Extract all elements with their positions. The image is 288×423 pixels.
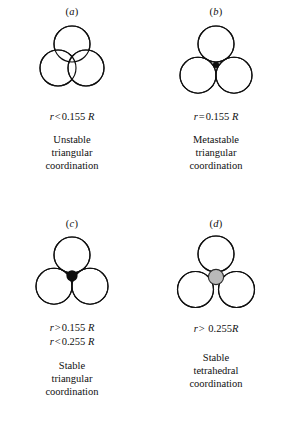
caption-line: coordination: [189, 159, 242, 172]
caption-line: triangular: [45, 146, 98, 159]
panel-c-letter: (c): [66, 219, 78, 231]
caption-line: Metastable: [189, 133, 242, 146]
caption-line: coordination: [189, 377, 242, 390]
panel-d-caption: Stable tetrahedral coordination: [189, 351, 242, 390]
panel-b-letter: (b): [210, 7, 223, 19]
caption-line: Stable: [45, 359, 98, 372]
cation-dot: [66, 270, 77, 281]
panel-d-letter: (d): [210, 219, 223, 231]
caption-line: Stable: [189, 351, 242, 364]
panel-c: (c) r>0.155 R r<0.255 R Stable triangula…: [0, 212, 144, 423]
formula-line: r<0.255 R: [50, 335, 95, 349]
formula-line: r=0.155 R: [194, 110, 239, 124]
panel-a-diagram: [12, 19, 132, 107]
cation-dot: [213, 62, 219, 68]
caption-line: Unstable: [45, 133, 98, 146]
panel-b: (b) r=0.155 R Metastable triangular coor…: [144, 0, 288, 212]
panel-b-caption: Metastable triangular coordination: [189, 133, 242, 172]
panel-d-diagram: [156, 231, 276, 317]
caption-line: coordination: [45, 385, 98, 398]
panel-b-formulas: r=0.155 R: [194, 110, 239, 124]
panel-a-caption: Unstable triangular coordination: [45, 133, 98, 172]
panel-a-formulas: r<0.155 R: [50, 110, 95, 124]
coordination-figure: (a) r<0.155 R Unstable triangular coordi…: [0, 0, 288, 423]
cation-sphere: [208, 269, 223, 284]
formula-line: r<0.155 R: [50, 110, 95, 124]
panel-c-formulas: r>0.155 R r<0.255 R: [50, 321, 95, 348]
caption-line: coordination: [45, 159, 98, 172]
formula-line: r> 0.255R: [194, 322, 239, 336]
caption-line: triangular: [45, 372, 98, 385]
panel-d-formulas: r> 0.255R: [194, 322, 239, 336]
panel-a: (a) r<0.155 R Unstable triangular coordi…: [0, 0, 144, 212]
panel-b-diagram: [156, 19, 276, 107]
panel-d: (d) r> 0.255R Stable tetrahedral coordin…: [144, 212, 288, 423]
panel-c-diagram: [12, 231, 132, 317]
formula-line: r>0.155 R: [50, 321, 95, 335]
caption-line: tetrahedral: [189, 364, 242, 377]
panel-a-letter: (a): [66, 7, 79, 19]
caption-line: triangular: [189, 146, 242, 159]
panel-c-caption: Stable triangular coordination: [45, 359, 98, 398]
